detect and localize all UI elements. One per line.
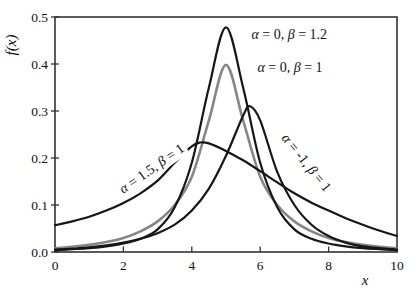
- curve-alpha0-beta1.2: [55, 27, 397, 250]
- x-tick-label: 6: [257, 258, 264, 273]
- x-tick-label: 4: [188, 258, 195, 273]
- label-alpha0-beta1: α = 0, β = 1: [257, 60, 322, 76]
- x-tick-label: 0: [52, 258, 59, 273]
- y-tick-label: 0.1: [31, 198, 48, 213]
- y-tick-label: 0.0: [31, 245, 48, 260]
- y-tick-label: 0.2: [31, 151, 48, 166]
- plot-frame: [55, 17, 397, 252]
- y-tick-label: 0.3: [31, 104, 48, 119]
- y-tick-label: 0.5: [31, 10, 48, 25]
- plot-svg: f(x) x 02468100.00.10.20.30.40.5: [0, 0, 417, 298]
- label-alpha0-beta1.2: α = 0, β = 1.2: [251, 27, 327, 43]
- curve-alpha-1-beta1: [55, 106, 397, 250]
- x-tick-label: 8: [325, 258, 332, 273]
- y-tick-label: 0.4: [31, 57, 48, 72]
- y-axis-label: f(x): [3, 35, 20, 56]
- x-tick-label: 10: [390, 258, 404, 273]
- x-tick-label: 2: [120, 258, 127, 273]
- x-axis-label: x: [361, 272, 369, 288]
- distribution-density-figure: f(x) x 02468100.00.10.20.30.40.5 α = 0, …: [0, 0, 417, 298]
